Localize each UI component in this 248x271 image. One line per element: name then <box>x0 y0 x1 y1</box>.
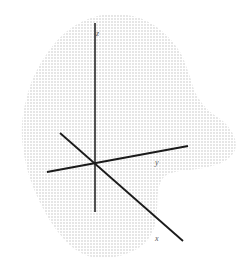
z-axis-label: z <box>96 30 99 38</box>
coordinate-axes-figure: z y x <box>0 0 248 271</box>
figure-canvas <box>0 0 248 271</box>
y-axis-label: y <box>155 159 159 167</box>
shaded-region <box>22 14 236 258</box>
x-axis-label: x <box>155 235 159 243</box>
